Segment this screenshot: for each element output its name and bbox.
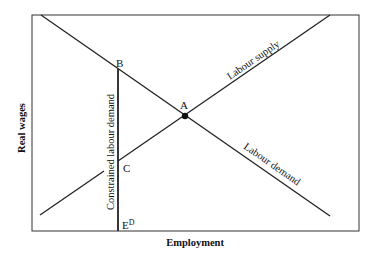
x-axis-label: Employment bbox=[166, 237, 224, 248]
constrained-labour-demand-label: Constrained labour demand bbox=[105, 93, 116, 210]
labour-supply-curve bbox=[118, 15, 330, 161]
point-label-a: A bbox=[180, 99, 188, 111]
point-label-ed: ED bbox=[122, 218, 135, 231]
equilibrium-point-a bbox=[182, 113, 188, 119]
y-axis-label: Real wages bbox=[16, 103, 27, 153]
labour-demand-label: Labour demand bbox=[242, 141, 303, 188]
labour-supply-label: Labour supply bbox=[225, 38, 282, 82]
point-label-c: C bbox=[123, 162, 130, 174]
labour-supply-curve-lower bbox=[40, 171, 104, 215]
point-label-b: B bbox=[116, 57, 123, 69]
labour-market-diagram: B A C ED Labour supply Labour demand Con… bbox=[0, 0, 380, 262]
